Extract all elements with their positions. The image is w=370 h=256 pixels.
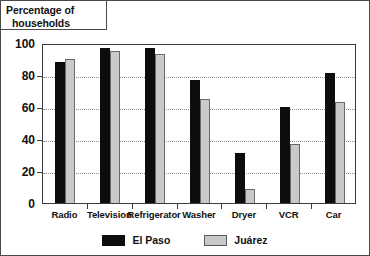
bar-television-juárez bbox=[110, 51, 120, 203]
x-tick-label-radio: Radio bbox=[51, 209, 77, 220]
black-swatch-icon bbox=[102, 235, 125, 246]
gray-swatch-icon bbox=[204, 235, 227, 246]
chart-legend: El Paso Juárez bbox=[1, 231, 369, 249]
bar-vcr-el-paso bbox=[280, 107, 290, 203]
bar-group-bars bbox=[178, 45, 223, 203]
x-tick-label-television: Television bbox=[87, 209, 132, 220]
bar-vcr-juárez bbox=[290, 144, 300, 203]
legend-item-juarez: Juárez bbox=[204, 234, 267, 246]
x-tick-label-dryer: Dryer bbox=[232, 209, 256, 220]
bar-group-bars bbox=[267, 45, 312, 203]
bar-radio-el-paso bbox=[55, 62, 65, 203]
y-tick-label: 60 bbox=[1, 101, 35, 115]
bar-group-bars bbox=[43, 45, 88, 203]
y-tick-label: 0 bbox=[1, 197, 35, 211]
bar-dryer-el-paso bbox=[235, 153, 245, 203]
bar-group-bars bbox=[88, 45, 133, 203]
x-tick-label-refrigerator: Refrigerator bbox=[128, 209, 181, 220]
chart-title-line-1: Percentage of bbox=[6, 4, 106, 17]
x-tick-label-car: Car bbox=[326, 209, 342, 220]
bar-television-el-paso bbox=[100, 48, 110, 203]
bar-group-bars bbox=[133, 45, 178, 203]
bar-group bbox=[43, 45, 88, 203]
y-tick-label: 100 bbox=[1, 37, 35, 51]
chart-title-line-2: households bbox=[6, 17, 106, 30]
legend-item-el-paso: El Paso bbox=[102, 234, 170, 246]
bar-group bbox=[267, 45, 312, 203]
y-axis-labels: 020406080100 bbox=[1, 1, 42, 256]
bar-group-bars bbox=[222, 45, 267, 203]
plot-inner bbox=[43, 45, 355, 203]
bar-car-juárez bbox=[335, 102, 345, 203]
bar-refrigerator-juárez bbox=[155, 54, 165, 203]
bar-group bbox=[312, 45, 357, 203]
chart-title-box: Percentage of households bbox=[1, 1, 107, 30]
bar-group bbox=[133, 45, 178, 203]
plot-area bbox=[42, 44, 356, 204]
legend-label-el-paso: El Paso bbox=[132, 234, 170, 246]
y-tick-label: 80 bbox=[1, 69, 35, 83]
bar-group bbox=[88, 45, 133, 203]
bar-washer-juárez bbox=[200, 99, 210, 203]
bar-washer-el-paso bbox=[190, 80, 200, 203]
x-axis-labels: RadioTelevisionRefrigeratorWasherDryerVC… bbox=[42, 209, 356, 225]
bar-radio-juárez bbox=[65, 59, 75, 203]
legend-label-juarez: Juárez bbox=[234, 234, 267, 246]
chart-figure: Percentage of households 020406080100 Ra… bbox=[0, 0, 370, 256]
y-tick-label: 20 bbox=[1, 165, 35, 179]
bar-group bbox=[178, 45, 223, 203]
bar-car-el-paso bbox=[325, 73, 335, 203]
x-tick-label-vcr: VCR bbox=[279, 209, 299, 220]
x-tick-label-washer: Washer bbox=[182, 209, 215, 220]
bar-group bbox=[222, 45, 267, 203]
y-tick-label: 40 bbox=[1, 133, 35, 147]
bar-refrigerator-el-paso bbox=[145, 48, 155, 203]
bar-group-bars bbox=[312, 45, 357, 203]
bar-dryer-juárez bbox=[245, 189, 255, 203]
